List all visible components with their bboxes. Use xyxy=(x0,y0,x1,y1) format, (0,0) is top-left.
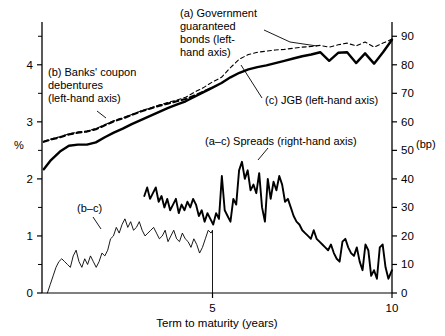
right-tick-label: 0 xyxy=(401,287,407,299)
right-tick-label: 20 xyxy=(401,230,414,242)
annotation-a-line-3: bonds (left- xyxy=(180,33,235,45)
x-axis-title: Term to maturity (years) xyxy=(156,317,278,329)
annotation-a-line-4: hand axis) xyxy=(180,46,231,58)
right-tick-label: 30 xyxy=(401,201,414,213)
left-axis-unit-label: % xyxy=(14,139,24,151)
annotation-b-line-2: debentures xyxy=(48,79,104,91)
annotation-bc-label: (b–c) xyxy=(77,202,102,214)
right-tick-label: 70 xyxy=(401,87,414,99)
annotation-a-line-2: guaranteed xyxy=(180,20,236,32)
chart-container: 01234 0102030405060708090 510 (a) Govern… xyxy=(0,0,445,336)
x-tick-label: 10 xyxy=(386,302,399,314)
right-tick-label: 90 xyxy=(401,30,414,42)
right-tick-label: 50 xyxy=(401,144,414,156)
annotation-a-line-1: (a) Government xyxy=(180,7,257,19)
annotation-c-label: (c) JGB (left-hand axis) xyxy=(265,94,378,106)
right-tick-label: 60 xyxy=(401,116,414,128)
yield-curve-chart: 01234 0102030405060708090 510 (a) Govern… xyxy=(0,0,445,336)
annotation-b-line-1: (b) Banks' coupon xyxy=(48,66,136,78)
right-tick-label: 40 xyxy=(401,173,414,185)
left-tick-label: 2 xyxy=(27,173,33,185)
right-tick-label: 80 xyxy=(401,59,414,71)
x-tick-label: 5 xyxy=(209,302,215,314)
left-tick-label: 0 xyxy=(27,287,33,299)
right-axis-unit-label: (bp) xyxy=(416,138,436,150)
left-tick-label: 4 xyxy=(27,59,34,71)
left-tick-label: 1 xyxy=(27,230,33,242)
right-tick-label: 10 xyxy=(401,258,414,270)
annotation-spreads-label: (a–c) Spreads (right-hand axis) xyxy=(205,135,357,147)
annotation-b-line-3: (left-hand axis) xyxy=(48,92,121,104)
left-tick-label: 3 xyxy=(27,116,33,128)
